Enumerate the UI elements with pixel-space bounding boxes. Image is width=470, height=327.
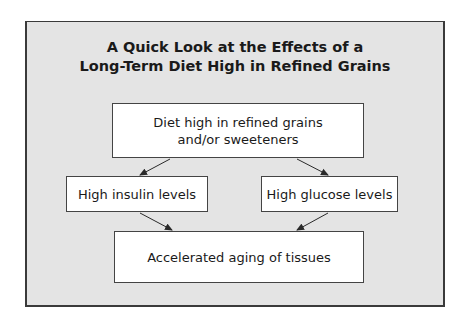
diagram-title: A Quick Look at the Effects of a Long-Te… <box>25 38 445 76</box>
title-line-2: Long-Term Diet High in Refined Grains <box>25 57 445 76</box>
node-high-glucose: High glucose levels <box>261 176 398 212</box>
title-line-1: A Quick Look at the Effects of a <box>25 38 445 57</box>
node-diet-line-1: Diet high in refined grains <box>153 114 322 131</box>
node-accelerated-aging: Accelerated aging of tissues <box>114 231 364 283</box>
node-high-insulin-label: High insulin levels <box>78 186 196 203</box>
node-diet-line-2: and/or sweeteners <box>153 131 322 148</box>
node-high-insulin: High insulin levels <box>66 176 208 212</box>
node-high-glucose-label: High glucose levels <box>267 186 393 203</box>
node-accelerated-aging-label: Accelerated aging of tissues <box>147 249 331 266</box>
node-diet: Diet high in refined grains and/or sweet… <box>112 103 364 158</box>
